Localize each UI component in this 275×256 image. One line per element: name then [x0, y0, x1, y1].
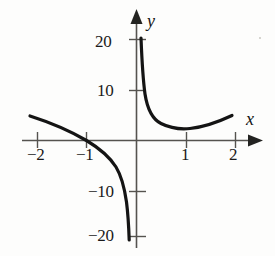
y-tick-label--10: −10	[88, 183, 114, 200]
curve-left-branch	[30, 116, 129, 240]
x-tick-label--2: −2	[27, 146, 45, 163]
x-tick-label-1: 1	[181, 146, 189, 163]
plot-canvas	[0, 0, 275, 256]
y-axis-arrowhead	[131, 9, 143, 24]
y-axis-label: y	[147, 12, 155, 30]
curve-right-branch	[141, 38, 232, 129]
y-tick-label--20: −20	[88, 227, 114, 244]
x-axis-arrowhead	[248, 135, 263, 147]
y-tick-label-10: 10	[97, 82, 113, 99]
scan-speck	[259, 37, 261, 39]
graph-figure: 20 10 −10 −20 −2 −1 1 2 x y	[0, 0, 275, 256]
x-tick-label--1: −1	[76, 146, 94, 163]
y-tick-label-20: 20	[95, 33, 111, 50]
x-axis-label: x	[246, 110, 254, 128]
x-tick-label-2: 2	[229, 146, 237, 163]
